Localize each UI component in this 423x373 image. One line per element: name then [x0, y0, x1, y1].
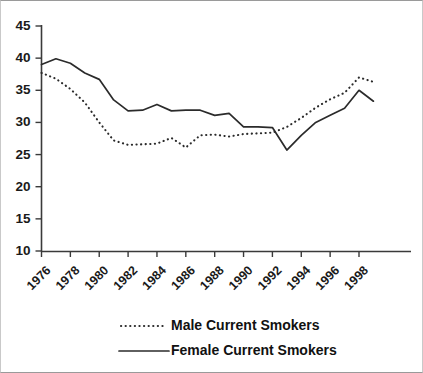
x-tick-label: 1980 [82, 263, 112, 293]
y-tick-label: 45 [15, 18, 31, 33]
y-tick-label: 25 [15, 147, 31, 162]
legend-label-male: Male Current Smokers [171, 317, 320, 333]
y-tick-label: 15 [15, 211, 31, 226]
x-tick-label: 1982 [111, 263, 141, 293]
x-tick-label: 1976 [24, 263, 54, 293]
x-tick-label: 1990 [226, 263, 256, 293]
x-axis-ticks: 1976197819801982198419861988199019921994… [24, 251, 371, 293]
x-tick-label: 1988 [197, 263, 227, 293]
y-axis-ticks: 4540353025201510 [15, 18, 41, 258]
x-tick-label: 1996 [313, 263, 343, 293]
series-male-current-smokers [42, 73, 374, 148]
y-tick-label: 20 [15, 179, 30, 194]
legend-label-female: Female Current Smokers [171, 342, 337, 358]
x-tick-label: 1986 [168, 263, 198, 293]
x-tick-label: 1984 [140, 263, 170, 293]
x-tick-label: 1978 [53, 263, 83, 293]
x-tick-label: 1998 [342, 263, 372, 293]
line-chart: 4540353025201510 19761978198019821984198… [1, 1, 423, 373]
x-tick-label: 1992 [255, 263, 285, 293]
legend: Male Current Smokers Female Current Smok… [119, 317, 337, 358]
chart-figure: 4540353025201510 19761978198019821984198… [0, 0, 423, 373]
y-tick-label: 10 [15, 243, 30, 258]
y-tick-label: 30 [15, 114, 30, 129]
x-tick-label: 1994 [284, 263, 314, 293]
series-female-current-smokers [42, 59, 374, 150]
y-tick-label: 40 [15, 50, 30, 65]
y-tick-label: 35 [15, 82, 31, 97]
